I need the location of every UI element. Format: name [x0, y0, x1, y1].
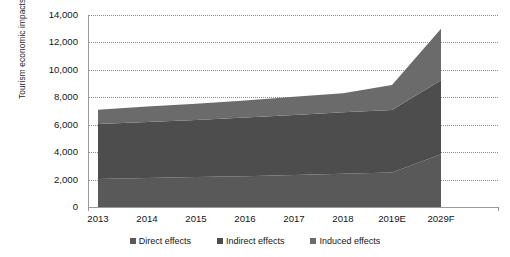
legend-swatch-icon [217, 238, 223, 244]
x-axis-tick-label: 2018 [332, 212, 353, 226]
plot-area [88, 15, 498, 207]
legend-item[interactable]: Indirect effects [217, 236, 284, 246]
x-axis-tick-label: 2019E [378, 212, 406, 226]
x-axis-tick-labels: 2013201420152016201720182019E2029F [88, 212, 498, 228]
x-axis-line [88, 207, 498, 208]
y-axis-tick-label: 4,000 [54, 147, 78, 157]
stacked-area-series [88, 15, 498, 207]
y-axis-tick-label: 6,000 [54, 120, 78, 130]
x-axis-tick-label: 2014 [136, 212, 157, 226]
y-axis-tick-label: 12,000 [49, 37, 78, 47]
x-axis-tick-label: 2016 [234, 212, 255, 226]
axis-tickmark [498, 207, 499, 211]
y-axis-tick-label: 10,000 [49, 65, 78, 75]
y-axis-tick-label: 8,000 [54, 92, 78, 102]
y-axis-tick-label: 14,000 [49, 10, 78, 20]
x-axis-tick-label: 2017 [283, 212, 304, 226]
legend-item[interactable]: Induced effects [310, 236, 380, 246]
legend-label: Direct effects [139, 236, 191, 246]
legend-label: Induced effects [319, 236, 380, 246]
legend-swatch-icon [130, 238, 136, 244]
y-axis-tick-label: 0 [73, 202, 78, 212]
x-axis-tick-label: 2029F [427, 212, 454, 226]
legend-swatch-icon [310, 238, 316, 244]
x-axis-tick-label: 2015 [185, 212, 206, 226]
chart-legend: Direct effectsIndirect effectsInduced ef… [0, 233, 510, 249]
y-axis-tick-label: 2,000 [54, 175, 78, 185]
axis-tickmark [88, 207, 89, 211]
area-series-induced-effects [98, 29, 441, 124]
legend-item[interactable]: Direct effects [130, 236, 191, 246]
y-axis-tick-labels: 02,0004,0006,0008,00010,00012,00014,000 [0, 0, 86, 215]
tourism-economic-impacts-chart: Tourism economic impacts (Billion, USD) … [0, 0, 510, 257]
x-axis-tick-label: 2013 [87, 212, 108, 226]
legend-label: Indirect effects [226, 236, 284, 246]
y-axis-line [88, 15, 89, 207]
